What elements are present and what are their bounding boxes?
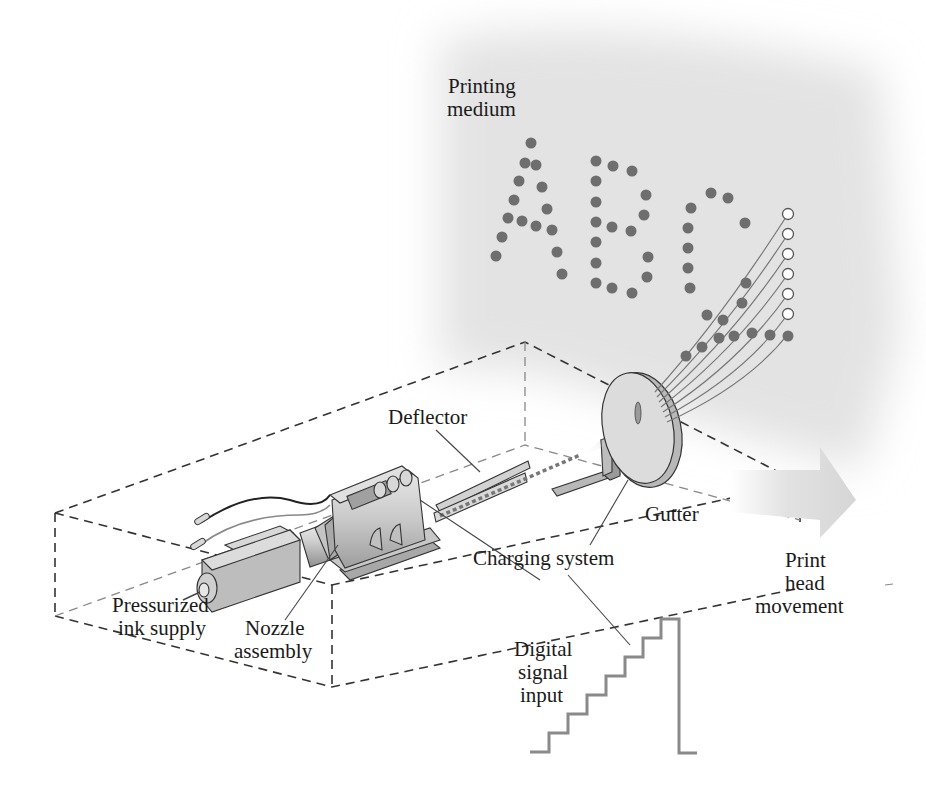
charging-system-unit [330,466,440,580]
label-printing-medium-line1: Printing [448,74,516,98]
label-nozzle-assembly-line2: assembly [234,639,313,663]
label-digital-signal-line2: signal [518,660,568,684]
label-charging-system: Charging system [473,546,614,570]
inkjet-diagram: Printing medium Deflector Gutter Chargin… [0,0,926,795]
label-digital-signal-line1: Digital [514,637,572,661]
label-deflector: Deflector [388,405,467,429]
label-print-head-line3: movement [755,594,844,618]
label-gutter: Gutter [645,502,699,526]
stray-mark [885,584,893,585]
label-print-head-line1: Print [785,548,826,572]
label-ink-supply-line2: ink supply [118,616,207,640]
label-nozzle-assembly-line1: Nozzle [245,616,304,640]
label-printing-medium-line2: medium [447,97,516,121]
label-print-head-line2: head [785,571,825,595]
label-digital-signal-line3: input [520,683,563,707]
label-ink-supply-line1: Pressurized [112,593,209,617]
